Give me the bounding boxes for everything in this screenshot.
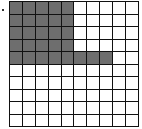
empty-cell [62,77,74,89]
empty-cell [23,77,35,89]
empty-cell [126,15,138,27]
empty-cell [113,65,125,77]
empty-cell [62,65,74,77]
empty-cell [74,15,86,27]
shaded-cell [36,27,48,39]
empty-cell [126,65,138,77]
empty-cell [126,90,138,102]
empty-cell [100,90,112,102]
shaded-cell [10,2,22,14]
shaded-cell [23,27,35,39]
empty-cell [100,77,112,89]
empty-cell [113,40,125,52]
shaded-cell [62,27,74,39]
empty-cell [74,65,86,77]
shaded-cell [23,2,35,14]
empty-cell [49,102,61,114]
shaded-cell [36,2,48,14]
empty-cell [87,77,99,89]
shaded-cell [49,52,61,64]
shaded-cell [49,40,61,52]
empty-cell [87,2,99,14]
empty-cell [23,90,35,102]
shaded-cell [49,15,61,27]
empty-cell [74,102,86,114]
empty-cell [87,65,99,77]
shaded-cell [36,52,48,64]
empty-cell [100,65,112,77]
empty-cell [10,65,22,77]
shaded-cell [10,52,22,64]
empty-cell [36,65,48,77]
empty-cell [10,102,22,114]
shaded-cell [23,15,35,27]
shaded-cell [74,52,86,64]
hundred-grid [9,1,139,127]
empty-cell [36,90,48,102]
empty-cell [113,102,125,114]
empty-cell [10,115,22,127]
shaded-cell [62,52,74,64]
empty-cell [126,115,138,127]
empty-cell [74,40,86,52]
empty-cell [100,27,112,39]
empty-cell [62,90,74,102]
empty-cell [126,2,138,14]
empty-cell [87,15,99,27]
empty-cell [126,52,138,64]
shaded-cell [49,2,61,14]
empty-cell [126,40,138,52]
empty-cell [74,2,86,14]
empty-cell [126,77,138,89]
empty-cell [100,2,112,14]
empty-cell [49,65,61,77]
empty-cell [126,102,138,114]
empty-cell [23,115,35,127]
shaded-cell [62,40,74,52]
empty-cell [113,2,125,14]
empty-cell [87,90,99,102]
empty-cell [100,40,112,52]
empty-cell [62,102,74,114]
empty-cell [49,77,61,89]
empty-cell [100,115,112,127]
shaded-cell [10,15,22,27]
empty-cell [74,27,86,39]
empty-cell [23,65,35,77]
shaded-cell [36,15,48,27]
empty-cell [113,27,125,39]
empty-cell [113,77,125,89]
empty-cell [113,52,125,64]
empty-cell [74,115,86,127]
shaded-cell [10,40,22,52]
empty-cell [23,102,35,114]
empty-cell [113,90,125,102]
empty-cell [100,102,112,114]
empty-cell [74,90,86,102]
shaded-cell [23,52,35,64]
empty-cell [36,102,48,114]
empty-cell [49,115,61,127]
empty-cell [87,115,99,127]
shaded-cell [49,27,61,39]
empty-cell [10,90,22,102]
empty-cell [113,115,125,127]
empty-cell [74,77,86,89]
empty-cell [49,90,61,102]
empty-cell [36,115,48,127]
empty-cell [126,27,138,39]
marker-dot [2,9,4,11]
empty-cell [87,102,99,114]
empty-cell [113,15,125,27]
empty-cell [62,115,74,127]
shaded-cell [10,27,22,39]
empty-cell [10,77,22,89]
empty-cell [87,27,99,39]
shaded-cell [36,40,48,52]
shaded-cell [87,52,99,64]
shaded-cell [62,2,74,14]
shaded-cell [23,40,35,52]
empty-cell [100,15,112,27]
shaded-cell [100,52,112,64]
empty-cell [87,40,99,52]
